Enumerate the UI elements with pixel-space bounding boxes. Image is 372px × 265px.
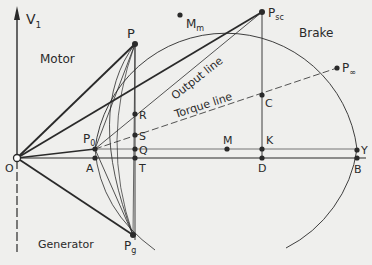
label-Q: Q: [139, 144, 148, 157]
output-line: [95, 12, 262, 149]
torque-line: [95, 68, 337, 149]
label-P: P: [127, 26, 135, 41]
label-D: D: [258, 162, 266, 175]
voltage-axis: [14, 6, 20, 252]
region-motor: Motor: [40, 52, 75, 66]
label-Y: Y: [360, 144, 368, 157]
circle-diagram: V1 Motor Generator Brake Output line Tor…: [0, 0, 372, 265]
arrow-up-icon: [14, 6, 20, 20]
label-B: B: [354, 163, 362, 176]
axis-label: V1: [26, 11, 41, 30]
label-R: R: [139, 109, 147, 122]
label-Pg: Pg: [124, 239, 136, 255]
points: [92, 9, 359, 238]
label-M: M: [223, 134, 233, 147]
generator-arc: [95, 149, 155, 250]
label-P0: P0: [83, 132, 95, 148]
label-C: C: [265, 97, 273, 110]
label-K: K: [266, 134, 274, 147]
label-O: O: [5, 162, 14, 175]
line-P0-P: [95, 44, 135, 149]
label-T: T: [138, 162, 146, 175]
origin-point: [14, 155, 21, 162]
label-Psc: Psc: [268, 6, 284, 22]
region-brake: Brake: [299, 26, 333, 40]
label-Pinf: P∞: [342, 61, 356, 77]
label-A: A: [86, 162, 94, 175]
label-Mm: Mm: [186, 17, 204, 33]
label-S: S: [139, 130, 146, 143]
region-generator: Generator: [38, 238, 94, 251]
